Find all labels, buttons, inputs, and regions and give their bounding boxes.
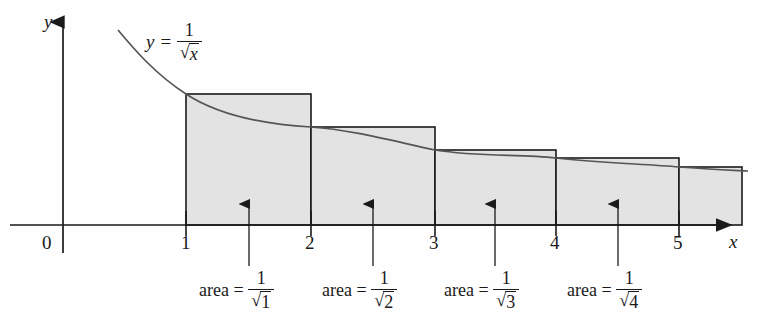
- radical-icon: √: [180, 42, 190, 63]
- area-label-3: area = 1 √ 3: [444, 270, 519, 314]
- radical-group-3: √ 3: [496, 291, 516, 313]
- radical-group-2: √ 2: [374, 291, 394, 313]
- radical-group-1: √ 1: [251, 291, 271, 313]
- area-fraction-4: 1 √ 4: [616, 269, 642, 313]
- area-word-4: area: [567, 280, 597, 300]
- area-radicand-4: 4: [628, 291, 639, 313]
- area-label-4: area = 1 √ 4: [567, 270, 642, 314]
- area-denominator-2: √ 2: [371, 290, 397, 313]
- area-equals-2: =: [356, 280, 366, 300]
- area-denominator-1: √ 1: [248, 290, 274, 313]
- area-equals-4: =: [601, 280, 611, 300]
- x-tick-label-3: 3: [429, 233, 439, 252]
- area-equals-1: =: [233, 280, 243, 300]
- equation-denominator: √ x: [177, 42, 202, 65]
- area-numerator-4: 1: [616, 269, 642, 290]
- origin-label: 0: [42, 233, 52, 252]
- area-fraction-3: 1 √ 3: [493, 269, 519, 313]
- radical-group: √ x: [180, 43, 199, 65]
- x-tick-label-1: 1: [181, 233, 191, 252]
- curve-equation-label: y = 1 √ x: [146, 22, 202, 66]
- equation-fraction: 1 √ x: [177, 21, 202, 65]
- riemann-sum-figure: y x 0 1 2 3 4 5 y = 1 √ x area = 1 √: [0, 0, 769, 330]
- area-numerator-2: 1: [371, 269, 397, 290]
- x-axis-label: x: [729, 232, 737, 251]
- area-numerator-1: 1: [248, 269, 274, 290]
- area-radicand-2: 2: [383, 291, 394, 313]
- x-tick-label-2: 2: [305, 233, 315, 252]
- area-fraction-2: 1 √ 2: [371, 269, 397, 313]
- area-radicand-3: 3: [505, 291, 516, 313]
- area-word-3: area: [444, 280, 474, 300]
- rectangle-5: [679, 167, 742, 225]
- x-tick-label-5: 5: [673, 233, 683, 252]
- area-fraction-1: 1 √ 1: [248, 269, 274, 313]
- radical-group-4: √ 4: [619, 291, 639, 313]
- radicand: x: [189, 43, 199, 65]
- area-word-2: area: [322, 280, 352, 300]
- area-word-1: area: [199, 280, 229, 300]
- radical-icon-1: √: [251, 290, 261, 311]
- area-equals-3: =: [478, 280, 488, 300]
- rectangle-group: [186, 94, 742, 225]
- equation-numerator: 1: [177, 21, 202, 42]
- area-denominator-4: √ 4: [616, 290, 642, 313]
- y-axis-label: y: [44, 12, 52, 31]
- area-denominator-3: √ 3: [493, 290, 519, 313]
- area-label-2: area = 1 √ 2: [322, 270, 397, 314]
- area-numerator-3: 1: [493, 269, 519, 290]
- area-radicand-1: 1: [260, 291, 271, 313]
- radical-icon-2: √: [374, 290, 384, 311]
- equation-lhs: y =: [146, 31, 172, 52]
- radical-icon-3: √: [496, 290, 506, 311]
- area-label-1: area = 1 √ 1: [199, 270, 274, 314]
- radical-icon-4: √: [619, 290, 629, 311]
- x-tick-label-4: 4: [550, 233, 560, 252]
